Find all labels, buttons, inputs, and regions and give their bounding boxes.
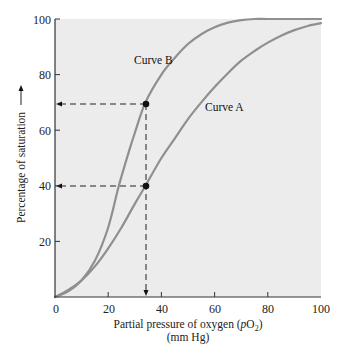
x-tick-label-80: 80 bbox=[262, 302, 274, 316]
plot-area bbox=[55, 19, 321, 297]
y-tick-label-80: 80 bbox=[39, 68, 51, 82]
x-axis-units: (mm Hg) bbox=[167, 331, 210, 344]
curve-b-label: Curve B bbox=[134, 54, 173, 66]
point-curve-a-34-40 bbox=[143, 183, 150, 190]
x-tick-label-100: 100 bbox=[312, 302, 330, 316]
curve-a-label: Curve A bbox=[205, 101, 244, 113]
y-tick-label-100: 100 bbox=[33, 13, 51, 27]
x-axis-title-o: O bbox=[246, 318, 254, 330]
arrow-up-icon bbox=[19, 85, 24, 91]
x-axis-title-main: Partial pressure of oxygen ( bbox=[113, 318, 240, 331]
point-curve-b-34-70 bbox=[143, 101, 150, 108]
y-axis-title: Percentage of saturation bbox=[15, 112, 28, 223]
x-axis-title-close: ) bbox=[259, 318, 263, 331]
oxygen-saturation-chart: 20 40 60 80 100 0 20 40 60 80 100 Curve … bbox=[0, 0, 344, 350]
x-tick-label-20: 20 bbox=[103, 302, 115, 316]
x-tick-label-40: 40 bbox=[156, 302, 168, 316]
y-tick-label-40: 40 bbox=[39, 179, 51, 193]
x-tick-label-0: 0 bbox=[53, 302, 59, 316]
y-tick-label-20: 20 bbox=[39, 235, 51, 249]
x-tick-label-60: 60 bbox=[209, 302, 221, 316]
y-tick-label-60: 60 bbox=[39, 124, 51, 138]
